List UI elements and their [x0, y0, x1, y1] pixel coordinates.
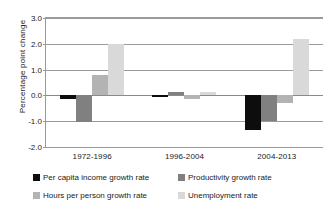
bar[interactable]	[60, 95, 76, 99]
legend-swatch-icon	[33, 192, 40, 199]
bar-group-bars	[138, 18, 230, 147]
bar-group-bars	[231, 18, 323, 147]
y-axis-title: Percentage point change	[18, 2, 27, 132]
bar-slot	[277, 18, 293, 147]
bar-slot	[261, 18, 277, 147]
legend-label: Productivity growth rate	[188, 173, 272, 182]
bar-group: 2004-2013	[231, 18, 323, 147]
bar[interactable]	[277, 95, 293, 103]
bar-slot	[293, 18, 309, 147]
bar[interactable]	[168, 92, 184, 96]
bar-slot	[168, 18, 184, 147]
y-axis-tick-label: 3.0	[31, 14, 42, 23]
legend-label: Hours per person growth rate	[43, 191, 147, 200]
bar-group: 1972-1996	[46, 18, 138, 147]
bar-group: 1996-2004	[138, 18, 230, 147]
legend-swatch-icon	[33, 174, 40, 181]
y-axis-tick-label: -1.0	[28, 117, 42, 126]
y-axis-tick-mark	[43, 147, 46, 148]
bar-slot	[184, 18, 200, 147]
bar-groups: 1972-19961996-20042004-2013	[46, 18, 323, 147]
x-axis-category-label: 1972-1996	[46, 152, 138, 161]
y-axis-tick-label: 0.0	[31, 91, 42, 100]
legend-label: Per capita income growth rate	[43, 173, 149, 182]
y-axis-tick-label: -2.0	[28, 143, 42, 152]
y-axis-tick-label: 2.0	[31, 39, 42, 48]
chart-legend: Per capita income growth rateProductivit…	[33, 168, 323, 204]
plot-wrap: 3.02.01.00.0-1.0-2.0 1972-19961996-20042…	[45, 17, 323, 147]
x-axis-category-label: 2004-2013	[231, 152, 323, 161]
y-axis-tick-label: 1.0	[31, 65, 42, 74]
bar-slot	[152, 18, 168, 147]
legend-swatch-icon	[178, 192, 185, 199]
legend-swatch-icon	[178, 174, 185, 181]
bar[interactable]	[293, 39, 309, 96]
bar-slot	[108, 18, 124, 147]
bar[interactable]	[184, 95, 200, 99]
legend-item[interactable]: Productivity growth rate	[178, 168, 323, 186]
bar-group-bars	[46, 18, 138, 147]
plot-area: 3.02.01.00.0-1.0-2.0 1972-19961996-20042…	[45, 17, 323, 147]
bar-slot	[245, 18, 261, 147]
bar-slot	[60, 18, 76, 147]
bar[interactable]	[261, 95, 277, 121]
bar-slot	[200, 18, 216, 147]
x-axis-category-label: 1996-2004	[138, 152, 230, 161]
legend-label: Unemployment rate	[188, 191, 258, 200]
legend-item[interactable]: Unemployment rate	[178, 186, 323, 204]
bar[interactable]	[92, 75, 108, 96]
bar[interactable]	[200, 92, 216, 96]
bar[interactable]	[152, 95, 168, 96]
legend-item[interactable]: Hours per person growth rate	[33, 186, 178, 204]
bar-chart: Percentage point change 3.02.01.00.0-1.0…	[0, 0, 330, 219]
legend-item[interactable]: Per capita income growth rate	[33, 168, 178, 186]
bar-slot	[76, 18, 92, 147]
gridline: -2.0	[46, 147, 323, 148]
bar-slot	[92, 18, 108, 147]
bar[interactable]	[245, 95, 261, 130]
bar[interactable]	[108, 44, 124, 96]
bar[interactable]	[76, 95, 92, 121]
